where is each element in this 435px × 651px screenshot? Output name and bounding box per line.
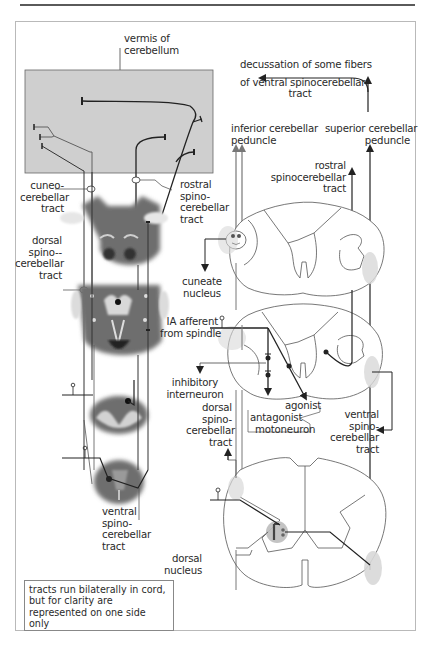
label-superior-cerebellar-peduncle: superior cerebellar peduncle: [325, 123, 410, 146]
cord-section-cervical: [226, 202, 384, 296]
brainstem-section-upper: [60, 196, 168, 265]
label-ventral-spinocerebellar-left: ventral spino- cerebellar tract: [102, 506, 151, 552]
label-decussation: decussation of some fibers of ventral sp…: [240, 59, 360, 100]
label-inferior-cerebellar-peduncle: inferior cerebellar peduncle: [231, 123, 318, 146]
note-box: tracts run bilaterally in cord, but for …: [24, 580, 174, 631]
label-motoneuron: motoneuron: [255, 424, 315, 436]
label-agonist: agonist: [285, 400, 321, 412]
label-ia-afferent: IA afferent from spindle: [160, 316, 218, 339]
cord-section-thoracic: [228, 304, 383, 399]
label-antagonist: antagonist: [250, 412, 302, 424]
label-rostral-spinocerebellar-left: rostral spino- cerebellar tract: [180, 179, 229, 225]
spinal-section-cervical: [90, 380, 148, 434]
label-ventral-spinocerebellar-right: ventral spino- cerebellar tract: [325, 409, 379, 455]
label-inhibitory-interneuron: inhibitory interneuron: [165, 377, 225, 400]
label-dorsal-spinocerebellar-right: dorsal spino- cerebellar tract: [186, 402, 232, 448]
cerebellum-vermis-box: [25, 70, 213, 173]
label-cuneocerebellar-tract: cuneo- cerebellar tract: [20, 180, 64, 215]
label-dorsal-nucleus: dorsal nucleus: [160, 553, 202, 576]
label-dorsal-spinocerebellar-left: dorsal spino-- cerebellar tract: [15, 235, 62, 281]
label-rostral-spinocerebellar-right: rostral spinocerebellar tract: [262, 160, 346, 195]
label-cuneate-nucleus: cuneate nucleus: [176, 276, 228, 299]
brainstem-section-middle: [71, 285, 169, 355]
label-vermis: vermis of cerebellum: [124, 33, 179, 56]
cord-section-lumbar: [224, 458, 386, 588]
